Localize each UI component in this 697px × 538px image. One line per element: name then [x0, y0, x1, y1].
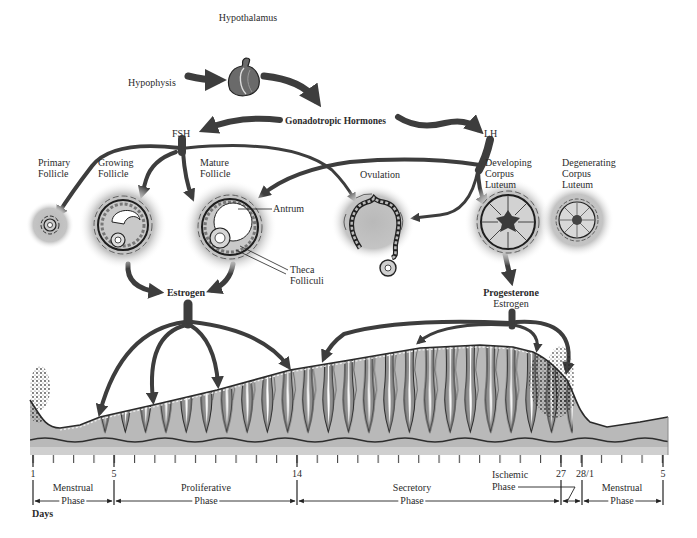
degenerating-cl-line3: Luteum	[562, 179, 616, 190]
developing-cl-line1: Developing	[485, 157, 532, 168]
proliferative-phase-name: Proliferative	[181, 482, 231, 493]
theca-label-line2: Folliculi	[290, 275, 324, 286]
degenerating-cl-line1: Degenerating	[562, 157, 616, 168]
secretory-phase-suffix: Phase	[398, 495, 425, 506]
day-marker-5: 5	[112, 468, 117, 479]
degenerating-cl-line2: Corpus	[562, 168, 616, 179]
ovulation-label: Ovulation	[360, 169, 400, 180]
growing-follicle-label: Growing Follicle	[98, 157, 134, 179]
menstrual-cycle-diagram: Hypothalamus Hypophysis Gonadotropic Hor…	[0, 0, 697, 538]
menstrual-phase-2-name: Menstrual	[602, 482, 643, 493]
mature-follicle-label-line2: Follicle	[200, 168, 231, 179]
endometrium-illustration	[26, 300, 690, 455]
growing-follicle-label-line2: Follicle	[98, 168, 134, 179]
fsh-label: FSH	[172, 128, 190, 139]
hypothalamus-label: Hypothalamus	[219, 12, 277, 23]
menstrual-phase-2-suffix: Phase	[608, 495, 635, 506]
day-marker-27: 27	[556, 468, 566, 479]
menstrual-phase-name: Menstrual	[53, 482, 94, 493]
ischemic-phase-name: Ischemic	[492, 469, 528, 480]
progesterone-label: Progesterone	[483, 287, 539, 298]
primary-follicle-label-line2: Follicle	[38, 168, 70, 179]
days-axis	[32, 455, 665, 505]
proliferative-phase-suffix: Phase	[192, 495, 219, 506]
day-marker-14: 14	[292, 468, 302, 479]
growing-follicle-label-line1: Growing	[98, 157, 134, 168]
mature-follicle-icon	[183, 180, 288, 274]
primary-follicle-icon	[26, 201, 74, 249]
developing-corpus-luteum-icon	[464, 178, 552, 266]
primary-follicle-label: Primary Follicle	[38, 157, 70, 179]
diagram-artwork	[0, 0, 697, 538]
secretory-phase-name: Secretory	[393, 482, 431, 493]
luteal-estrogen-label: Estrogen	[493, 298, 529, 309]
theca-folliculi-label: Theca Folliculi	[290, 264, 324, 286]
lh-label: LH	[484, 128, 497, 139]
ischemic-phase-suffix: Phase	[492, 481, 515, 492]
gonadotropic-hormones-label: Gonadotropic Hormones	[285, 116, 386, 127]
antrum-label: Antrum	[273, 203, 304, 214]
day-marker-5-next: 5	[661, 468, 666, 479]
hypothalamus-gland-icon	[229, 58, 260, 96]
theca-label-line1: Theca	[290, 264, 324, 275]
degenerating-corpus-luteum-label: Degenerating Corpus Luteum	[562, 157, 616, 190]
developing-corpus-luteum-label: Developing Corpus Luteum	[485, 157, 532, 190]
growing-follicle-icon	[79, 181, 167, 269]
mature-follicle-label-line1: Mature	[200, 157, 231, 168]
day-marker-28-1: 28/1	[576, 468, 594, 479]
days-axis-label: Days	[32, 508, 53, 519]
degenerating-corpus-luteum-icon	[540, 183, 614, 257]
mature-follicle-label: Mature Follicle	[200, 157, 231, 179]
ovulation-icon	[331, 184, 415, 276]
developing-cl-line2: Corpus	[485, 168, 532, 179]
menstrual-phase-suffix: Phase	[59, 495, 86, 506]
primary-follicle-label-line1: Primary	[38, 157, 70, 168]
estrogen-label: Estrogen	[167, 287, 205, 298]
hypophysis-label: Hypophysis	[128, 77, 176, 88]
day-marker-1: 1	[31, 468, 36, 479]
developing-cl-line3: Luteum	[485, 179, 532, 190]
